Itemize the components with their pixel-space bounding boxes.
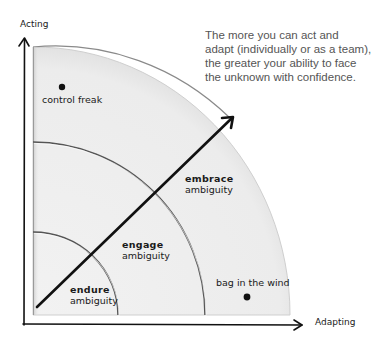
zone-endure-label: endure ambiguity	[70, 285, 118, 307]
caption-line: The more you can act and	[205, 28, 375, 42]
bag-in-the-wind-dot	[244, 294, 251, 301]
ambiguity-diagram: The more you can act and adapt (individu…	[0, 0, 379, 345]
zone-embrace-label: embrace ambiguity	[185, 174, 233, 196]
x-axis	[23, 324, 302, 325]
control-freak-dot	[59, 84, 65, 90]
caption-text: The more you can act and adapt (individu…	[205, 28, 375, 84]
zone-endure-line2: ambiguity	[70, 296, 118, 307]
caption-line: the greater your ability to face	[205, 56, 375, 70]
x-axis-label: Adapting	[315, 317, 355, 327]
caption-line: adapt (individually or as a team),	[205, 42, 375, 56]
zone-engage-label: engage ambiguity	[122, 240, 170, 262]
zone-engage-line2: ambiguity	[122, 251, 170, 262]
y-axis	[24, 39, 25, 325]
bag-in-the-wind-label: bag in the wind	[216, 278, 290, 289]
zone-embrace-line2: ambiguity	[185, 185, 233, 196]
y-axis-label: Acting	[20, 19, 48, 29]
control-freak-label: control freak	[42, 95, 102, 106]
caption-line: the unknown with confidence.	[205, 70, 375, 84]
